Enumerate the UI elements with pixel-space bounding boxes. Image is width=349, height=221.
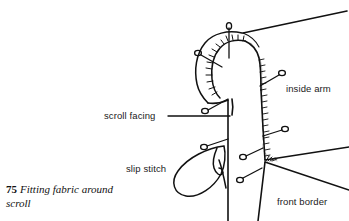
callout-label-front-border: front border bbox=[277, 197, 327, 207]
figure-caption-text: Fitting fabric around scroll bbox=[6, 183, 113, 209]
figure-number: 75 bbox=[6, 183, 17, 195]
callout-label-scroll-facing: scroll facing bbox=[104, 111, 155, 121]
figure-illustration-75: scroll facing inside arm slip stitch fro… bbox=[0, 0, 349, 221]
callout-label-inside-arm: inside arm bbox=[286, 84, 331, 94]
figure-caption: 75Fitting fabric around scroll bbox=[6, 182, 138, 210]
callout-label-slip-stitch: slip stitch bbox=[126, 164, 166, 174]
